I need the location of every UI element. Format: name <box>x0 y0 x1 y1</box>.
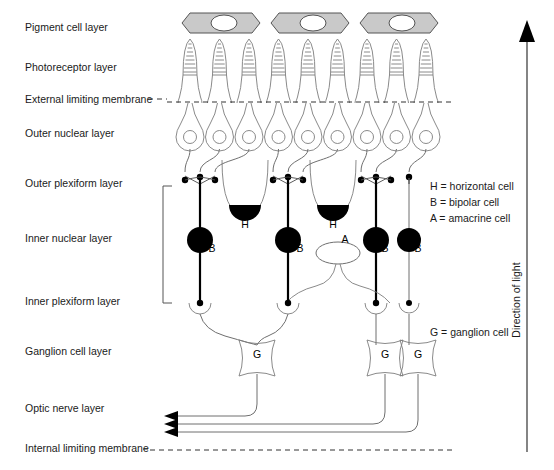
photoreceptor-cell <box>412 39 440 151</box>
optic-nerve-arrowhead <box>164 427 178 437</box>
photoreceptor-inner-segment <box>267 75 291 103</box>
optic-nerve-arrowhead <box>164 411 178 421</box>
bipolar-terminal-dot <box>197 300 203 306</box>
ganglion-cell-marker: G <box>414 348 422 360</box>
photoreceptor-nucleus <box>390 131 403 144</box>
amacrine-process-left <box>286 264 336 303</box>
layer-label-optic-nerve-layer: Optic nerve layer <box>25 402 105 414</box>
photoreceptor-axon <box>273 149 279 172</box>
horizontal-cell-marker: H <box>329 218 337 230</box>
optic-nerve-arrowhead <box>164 419 178 429</box>
photoreceptor-inner-segment <box>355 75 379 103</box>
pigment-cell-nucleus <box>211 15 237 31</box>
photoreceptor-cell <box>265 39 293 151</box>
legend-item-g: G = ganglion cell <box>430 326 509 338</box>
photoreceptor-cell <box>383 39 411 151</box>
horizontal-cell-marker: H <box>241 218 249 230</box>
bipolar-terminal-dot <box>285 300 291 306</box>
photoreceptor-axon <box>303 149 338 172</box>
ganglion-cell-layer-group <box>239 340 436 376</box>
ganglion-dendrite <box>257 314 288 345</box>
photoreceptor-axon <box>288 149 308 172</box>
bipolar-cell-marker: B <box>296 242 303 254</box>
legend-item-b: B = bipolar cell <box>430 196 499 208</box>
photoreceptor-nucleus <box>213 131 226 144</box>
layer-label-ganglion-cell-layer: Ganglion cell layer <box>25 345 112 357</box>
optic-nerve-layer-group <box>164 374 418 437</box>
photoreceptor-cell <box>294 39 322 151</box>
ganglion-dendrites-group <box>200 314 409 345</box>
photoreceptor-nucleus <box>272 131 285 144</box>
photoreceptor-axon <box>376 149 397 172</box>
photoreceptor-cell <box>176 39 204 151</box>
photoreceptor-nucleus <box>302 131 315 144</box>
optic-nerve-axon <box>173 374 418 432</box>
bipolar-cell-marker: B <box>208 242 215 254</box>
layer-label-internal-limiting-membrane: Internal limiting membrane <box>25 442 149 454</box>
photoreceptor-inner-segment <box>237 75 261 103</box>
layer-label-outer-plexiform-layer: Outer plexiform layer <box>25 177 123 189</box>
bipolar-cells-group <box>187 178 421 303</box>
photoreceptor-axon <box>409 149 426 172</box>
bipolar-cell-marker: B <box>381 242 388 254</box>
diagram-text-layer: Pigment cell layerPhotoreceptor layerExt… <box>25 21 522 454</box>
photoreceptor-layer-group <box>176 39 440 151</box>
bipolar-cell-marker: B <box>414 242 421 254</box>
layer-label-photoreceptor-layer: Photoreceptor layer <box>25 61 117 73</box>
pigment-cell-nucleus <box>300 15 326 31</box>
photoreceptor-inner-segment <box>385 75 409 103</box>
legend-item-a: A = amacrine cell <box>430 212 510 224</box>
pigment-cell-layer-group <box>182 13 438 33</box>
direction-of-light-arrowhead <box>519 20 535 42</box>
layer-label-external-limiting-membrane: External limiting membrane <box>25 93 152 105</box>
layer-label-pigment-cell-layer: Pigment cell layer <box>25 21 108 33</box>
photoreceptor-axon <box>215 149 249 172</box>
legend-item-h: H = horizontal cell <box>430 180 514 192</box>
pigment-cell-nucleus <box>389 15 415 31</box>
photoreceptor-cell <box>324 39 352 151</box>
photoreceptor-cell <box>353 39 381 151</box>
photoreceptor-inner-segment <box>178 75 202 103</box>
photoreceptor-inner-segment <box>414 75 438 103</box>
direction-of-light-label: Direction of light <box>510 262 522 337</box>
photoreceptor-nucleus <box>184 131 197 144</box>
photoreceptor-inner-segment <box>208 75 232 103</box>
inner-nuclear-layer-bracket <box>163 186 172 303</box>
bipolar-terminal-dot <box>373 300 379 306</box>
photoreceptor-nucleus <box>361 131 374 144</box>
photoreceptor-inner-segment <box>326 75 350 103</box>
photoreceptor-nucleus <box>420 131 433 144</box>
retina-diagram-canvas: Pigment cell layerPhotoreceptor layerExt… <box>0 0 554 470</box>
bipolar-terminal-dot <box>406 300 412 306</box>
photoreceptor-nucleus <box>331 131 344 144</box>
amacrine-process-right <box>340 264 390 303</box>
layer-label-outer-nuclear-layer: Outer nuclear layer <box>25 127 115 139</box>
outer-plexiform-terminals-group <box>182 149 426 184</box>
retina-diagram-svg: Pigment cell layerPhotoreceptor layerExt… <box>0 0 554 470</box>
photoreceptor-cell <box>206 39 234 151</box>
ganglion-cell-marker: G <box>381 348 389 360</box>
ganglion-cell-marker: G <box>253 348 261 360</box>
layer-label-inner-nuclear-layer: Inner nuclear layer <box>25 232 112 244</box>
layer-label-inner-plexiform-layer: Inner plexiform layer <box>25 295 121 307</box>
direction-of-light-group <box>519 20 535 452</box>
ganglion-dendrite <box>200 314 257 345</box>
amacrine-cell-marker: A <box>341 233 348 245</box>
photoreceptor-inner-segment <box>296 75 320 103</box>
photoreceptor-nucleus <box>243 131 256 144</box>
amacrine-cell-body <box>316 242 360 264</box>
optic-nerve-axon <box>173 374 257 416</box>
photoreceptor-axon <box>185 149 190 172</box>
bipolar-terminal-cups-group <box>189 300 419 314</box>
photoreceptor-cell <box>235 39 263 151</box>
photoreceptor-axon <box>361 149 367 172</box>
